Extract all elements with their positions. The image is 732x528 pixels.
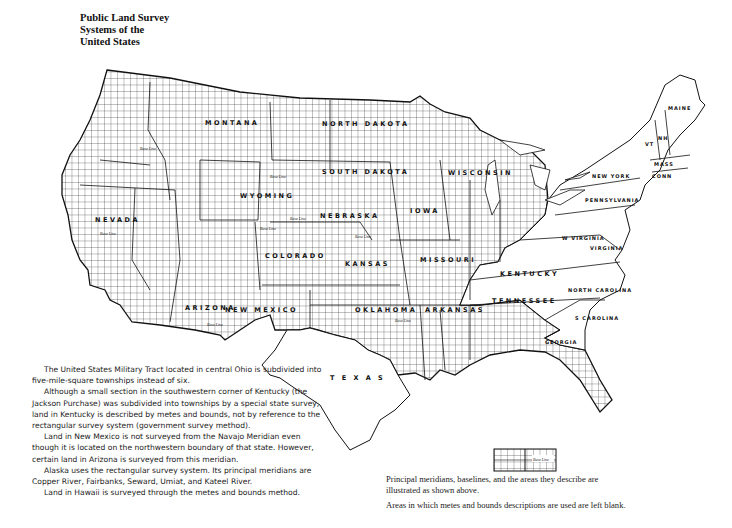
note-legend-meridians: Principal meridians, baselines, and the … xyxy=(386,474,626,495)
note-kentucky: Although a small section in the southwes… xyxy=(32,386,322,431)
label-pennsylvania: PENNSYLVANIA xyxy=(585,197,639,203)
label-new-hampshire: NH xyxy=(658,135,668,141)
label-north-carolina: NORTH CAROLINA xyxy=(568,287,632,293)
baseline-label: Base Line xyxy=(395,318,411,323)
label-south-dakota: SOUTH DAKOTA xyxy=(322,168,409,176)
label-texas: T E X A S xyxy=(330,374,385,382)
label-wyoming: WYOMING xyxy=(240,192,294,200)
baseline-label: Base Line xyxy=(207,322,223,327)
label-new-york: NEW YORK xyxy=(592,173,630,179)
baseline-label: Base Line xyxy=(100,231,116,236)
label-west-virginia: W VIRGINIA xyxy=(562,235,605,241)
label-oklahoma: OKLAHOMA xyxy=(355,306,417,314)
note-hawaii: Land in Hawaii is surveyed through the m… xyxy=(32,487,322,498)
label-wisconsin: WISCONSIN xyxy=(448,169,513,177)
label-missouri: MISSOURI xyxy=(420,256,476,264)
note-military-tract: The United States Military Tract located… xyxy=(32,364,322,386)
label-colorado: COLORADO xyxy=(265,252,326,260)
label-kentucky: KENTUCKY xyxy=(500,270,559,278)
note-new-mexico: Land in New Mexico is not surveyed from … xyxy=(32,431,322,465)
baseline-label: Base Line xyxy=(140,146,156,151)
baseline-label: Base Line xyxy=(260,226,276,231)
label-nevada: NEVADA xyxy=(95,216,140,224)
label-montana: MONTANA xyxy=(205,119,259,127)
baseline-label: Base Line xyxy=(290,216,306,221)
label-maine: MAINE xyxy=(668,105,691,111)
label-connecticut: CONN xyxy=(652,173,672,179)
label-georgia: GEORGIA xyxy=(545,339,577,345)
label-south-carolina: S CAROLINA xyxy=(575,315,619,321)
label-north-dakota: NORTH DAKOTA xyxy=(322,120,409,128)
legend-sample: Base Line xyxy=(494,449,556,471)
label-arkansas: ARKANSAS xyxy=(425,306,485,314)
label-iowa: IOWA xyxy=(410,207,440,215)
label-virginia: VIRGINIA xyxy=(590,245,623,251)
label-vermont: VT xyxy=(645,141,654,147)
notes-left: The United States Military Tract located… xyxy=(32,364,322,498)
baseline-label: Base Line xyxy=(270,174,286,179)
notes-right: Principal meridians, baselines, and the … xyxy=(386,474,626,516)
baseline-label: Base Line xyxy=(355,234,371,239)
label-nebraska: NEBRASKA xyxy=(320,212,380,220)
note-alaska: Alaska uses the rectangular survey syste… xyxy=(32,465,322,487)
label-kansas: KANSAS xyxy=(345,260,390,268)
label-new-mexico: NEW MEXICO xyxy=(225,306,298,314)
label-tennessee: TENNESSEE xyxy=(492,297,557,305)
note-legend-blank: Areas in which metes and bounds descript… xyxy=(386,500,626,511)
label-massachusetts: MASS xyxy=(654,161,674,167)
legend-baseline-label: Base Line xyxy=(533,457,549,462)
